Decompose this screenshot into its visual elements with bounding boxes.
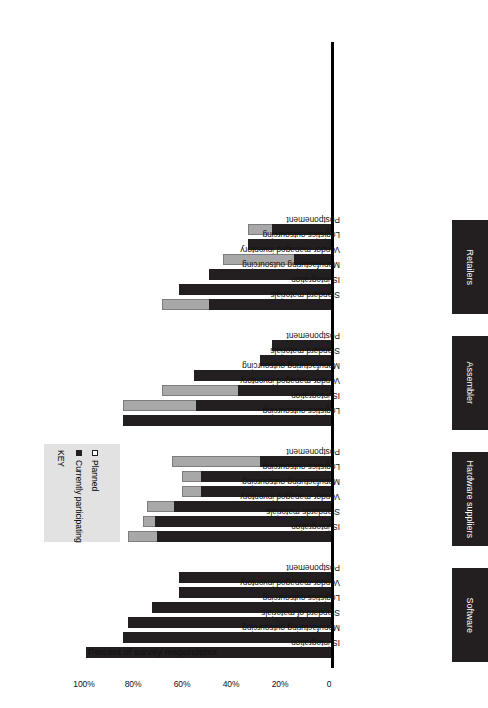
axis-tick-text: 100%: [74, 679, 95, 689]
axis-tick-label: 60%: [177, 672, 187, 696]
group-plaque-label: Retailers: [465, 249, 475, 285]
bar[interactable]: [162, 299, 331, 310]
axis-tick-label: 20%: [275, 672, 285, 696]
axis-tick-text: 40%: [223, 679, 240, 689]
legend-entry-label: Currently participating: [74, 460, 84, 543]
category-label: Vendor-managed inventory: [240, 245, 340, 255]
category-label: Postponement: [286, 331, 340, 341]
axis-tick-text: 0: [327, 679, 332, 689]
group-plaque: Assembler: [452, 336, 488, 430]
category-label: Standard materials: [270, 290, 340, 300]
axis-tick-text: 60%: [174, 679, 191, 689]
category-label: Postponement: [286, 563, 340, 573]
category-label: Postponement: [286, 215, 340, 225]
legend-title: KEY: [56, 450, 66, 467]
bar-segment-current: [209, 299, 331, 310]
category-label: Standard of materials: [261, 608, 340, 618]
category-label: Vendor-managed inventory: [240, 492, 340, 502]
group-plaque: Software: [452, 568, 488, 662]
category-label: Logistics outsourcing: [263, 406, 340, 416]
axis-title: Percent of survey respondents: [147, 660, 158, 708]
category-label: Manufacturing outsourcing: [242, 260, 340, 270]
axis-tick-label: 100%: [79, 672, 89, 696]
category-label: Vendor-managed inventory: [240, 376, 340, 386]
legend-swatch-filled-icon: [76, 450, 82, 456]
group-plaque-label: Hardware suppliers: [465, 460, 475, 538]
category-label: Standards materials: [266, 507, 340, 517]
axis-tick-text: 20%: [272, 679, 289, 689]
category-label: Logistics outsourcing: [263, 230, 340, 240]
group-plaque: Retailers: [452, 220, 488, 314]
category-label: Manufacturing outsourcing: [242, 361, 340, 371]
category-label: Standard materials: [270, 346, 340, 356]
category-label: IS integration: [291, 275, 340, 285]
axis-tick-label: 80%: [128, 672, 138, 696]
axis-tick-text: 80%: [125, 679, 142, 689]
category-label: IS integration: [291, 638, 340, 648]
axis-tick-label: 0: [324, 672, 334, 696]
group-plaque-label: Software: [465, 597, 475, 633]
category-label: Vendor-managed inventory: [240, 578, 340, 588]
legend-entry[interactable]: Currently participating: [74, 450, 84, 543]
category-label: IS integration: [291, 391, 340, 401]
legend-swatch-hollow-icon: [92, 450, 98, 456]
category-label: Manufacturing outsourcing: [242, 477, 340, 487]
category-label: Logistics outsourcing: [263, 593, 340, 603]
category-label: Logistics outsourcing: [263, 462, 340, 472]
legend-entry[interactable]: Planned: [90, 450, 100, 491]
group-plaque-label: Assembler: [465, 362, 475, 405]
legend-entry-label: Planned: [90, 460, 100, 491]
legend: KEYCurrently participatingPlanned: [44, 444, 120, 542]
axis-tick-label: 40%: [226, 672, 236, 696]
category-label: Postponement: [286, 447, 340, 457]
category-label: IS integration: [291, 522, 340, 532]
category-label: Manufacturing outsourcing: [242, 623, 340, 633]
axis-title-text: Percent of survey respondents: [89, 646, 218, 657]
group-plaque: Hardware suppliers: [452, 452, 488, 546]
